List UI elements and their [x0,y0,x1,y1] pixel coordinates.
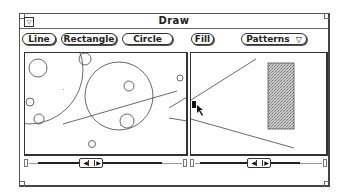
resize-corner-bottom-left[interactable] [19,181,25,187]
draw-window: ▽ Draw Line Rectangle Circle Fill Patter… [19,13,330,187]
right-horizontal-scrollbar[interactable]: ◀ ▶ [190,158,328,170]
filled-rectangle-shape [268,63,294,129]
circle-shape [85,62,153,130]
scrollbar-thumb[interactable]: ◀ ▶ [79,158,103,168]
scrollbar-start-cap[interactable] [190,159,194,167]
scrollbar-end-cap[interactable] [323,159,327,167]
scrollbar-thumb[interactable]: ◀ ▶ [247,158,271,168]
circle-shape [26,98,34,106]
line-shape [169,97,187,108]
left-horizontal-scrollbar[interactable]: ◀ ▶ [24,158,188,170]
scroll-right-arrow-icon[interactable]: ▶ [263,160,270,166]
circle-shape [25,53,83,124]
scroll-right-arrow-icon[interactable]: ▶ [95,160,102,166]
line-shape [169,118,187,121]
title-bar[interactable]: ▽ Draw [20,14,328,29]
selection-handle [192,101,196,108]
rectangle-button[interactable]: Rectangle [61,33,117,45]
circle-shape [34,114,44,124]
circle-shape [29,59,47,77]
window-title: Draw [20,15,328,26]
right-canvas-pane[interactable] [190,52,328,156]
dropdown-triangle-icon: ▽ [296,35,302,44]
circle-shape [177,75,183,81]
right-canvas-drawing [191,53,327,155]
circle-shape [89,141,96,148]
resize-corner-bottom-right[interactable] [324,181,330,187]
scrollbar-start-cap[interactable] [24,159,28,167]
fill-button[interactable]: Fill [191,33,214,45]
circle-shape [124,81,134,91]
circle-button[interactable]: Circle [122,33,173,45]
patterns-menu-button[interactable]: Patterns ▽ [241,33,307,45]
circle-shape [120,114,134,128]
line-button[interactable]: Line [22,33,56,45]
line-shape [191,59,256,100]
left-canvas-drawing [25,53,187,155]
left-canvas-pane[interactable] [24,52,188,156]
patterns-label: Patterns [246,34,289,44]
mouse-pointer-icon [197,105,203,116]
scrollbar-end-cap[interactable] [183,159,187,167]
circle-shape [79,53,91,65]
